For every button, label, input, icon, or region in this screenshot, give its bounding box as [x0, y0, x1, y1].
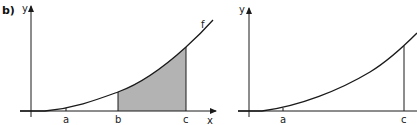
diagram-canvas: b) y x f a b c y a — [0, 0, 417, 125]
right-plot: y a c — [238, 4, 417, 125]
figure-label: b) — [2, 4, 15, 17]
tick-label-a-right: a — [280, 114, 286, 125]
function-label: f — [201, 19, 205, 30]
left-plot: y x f a b c — [20, 3, 216, 125]
tick-label-b: b — [115, 114, 121, 125]
x-axis-label: x — [207, 115, 213, 125]
tick-label-a: a — [63, 114, 69, 125]
y-axis-label: y — [22, 3, 28, 14]
tick-label-c-right: c — [401, 114, 407, 125]
tick-label-c: c — [183, 114, 189, 125]
function-curve-right — [238, 33, 417, 111]
y-axis-label-right: y — [239, 4, 245, 15]
